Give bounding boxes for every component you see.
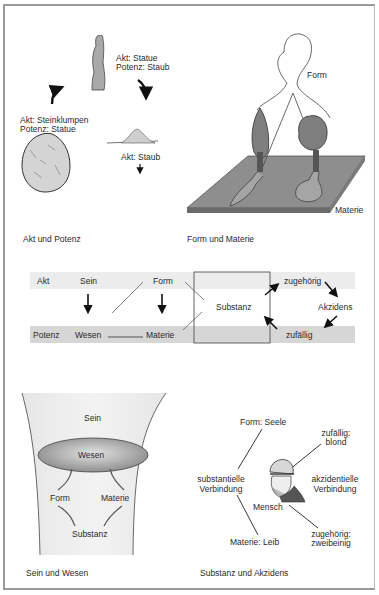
funnel-materie: Materie	[101, 493, 129, 503]
arrow-akzidens-zufaellig-icon	[326, 316, 337, 326]
schema-materie: Materie	[146, 330, 174, 340]
funnel-wesen: Wesen	[78, 450, 104, 460]
dust-icon	[107, 129, 158, 143]
schema-akzidens: Akzidens	[318, 302, 353, 312]
schema-zugehoerig: zugehörig	[284, 276, 321, 286]
form-label: Form	[307, 70, 327, 80]
blond-label: blond	[318, 437, 354, 447]
mensch-label: Mensch	[253, 502, 283, 512]
caption-sein-und-wesen: Sein und Wesen	[26, 568, 88, 578]
diagram-graphics	[0, 0, 379, 595]
schema-form: Form	[153, 276, 173, 286]
statue-icon	[92, 35, 105, 90]
caption-form-und-materie: Form und Materie	[187, 234, 254, 244]
zweibeinig-label: zweibeinig	[306, 538, 356, 548]
form-materie-illustration	[187, 34, 365, 213]
schema-potenz: Potenz	[33, 330, 59, 340]
materie-leib-label: Materie: Leib	[230, 537, 279, 547]
funnel-sein: Sein	[84, 413, 101, 423]
stone-potenz-label: Potenz: Statue	[20, 124, 76, 134]
mensch-head-icon	[270, 460, 305, 503]
akzidentielle-label: akzidentielle	[303, 474, 367, 484]
schema-zufaellig: zufällig	[286, 330, 312, 340]
arrow-down-curve-icon	[138, 80, 146, 96]
caption-substanz-und-akzidens: Substanz und Akzidens	[200, 568, 288, 578]
schema-sein: Sein	[80, 276, 97, 286]
funnel-form: Form	[50, 493, 70, 503]
akzidentielle-verbindung-label: Verbindung	[303, 484, 367, 494]
schema-wesen: Wesen	[75, 330, 101, 340]
schema-substanz: Substanz	[216, 302, 251, 312]
statue-potenz-label: Potenz: Staub	[116, 62, 169, 72]
substantielle-verbindung-label: Verbindung	[190, 484, 252, 494]
form-seele-label: Form: Seele	[240, 417, 286, 427]
dust-akt-label: Akt: Staub	[121, 152, 160, 162]
caption-akt-und-potenz: Akt und Potenz	[23, 234, 81, 244]
substantielle-label: substantielle	[190, 474, 252, 484]
schema-akt: Akt	[37, 276, 49, 286]
funnel-substanz: Substanz	[72, 529, 107, 539]
stone-icon	[22, 133, 70, 192]
arrow-up-icon	[52, 88, 60, 104]
materie-label: Materie	[335, 205, 363, 215]
